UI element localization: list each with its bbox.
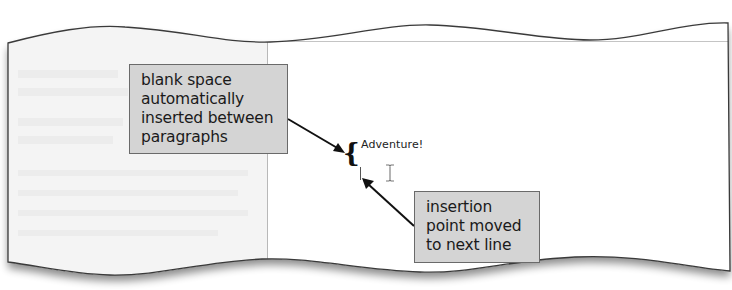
callout-blank-space: blank space automatically inserted betwe… <box>129 64 288 154</box>
callout-line: blank space <box>141 71 279 90</box>
ibeam-cursor-icon <box>384 164 396 182</box>
document-heading: Adventure! <box>361 138 423 151</box>
callout-line: insertion <box>426 198 531 217</box>
callout-insertion-point: insertion point moved to next line <box>414 191 540 263</box>
insertion-point-caret <box>360 167 361 180</box>
callout-line: automatically <box>141 90 279 109</box>
callout-line: point moved <box>426 217 531 236</box>
callout-line: paragraphs <box>141 128 279 147</box>
callout-line: inserted between <box>141 109 279 128</box>
brace-icon: { <box>343 138 360 168</box>
callout-line: to next line <box>426 236 531 255</box>
figure-stage: { Adventure! blank space automatically i… <box>0 0 732 290</box>
